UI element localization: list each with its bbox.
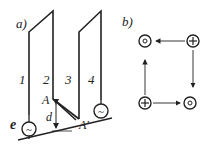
source-label: e [10,117,16,132]
panel-b-label: b) [122,14,133,29]
panel-a-label: a) [16,16,27,31]
point-a-label: A [41,93,50,107]
segment-a-a-prime [53,99,79,119]
conductor-bottom-left [139,97,151,109]
conductor-loop-1-2 [29,11,76,120]
svg-text:~: ~ [26,123,32,135]
panel-b: b) [122,14,199,109]
panel-a: a) ~ ~ 1 2 3 4 A A' d e [10,11,112,140]
wire-label-4: 4 [88,72,95,87]
wire-label-3: 3 [64,72,72,87]
conductor-loop-3-4 [79,11,101,119]
dot-out-icon [184,97,196,109]
conductor-top-right [187,35,199,47]
distance-label: d [46,110,53,124]
svg-text:~: ~ [98,105,104,117]
conductor-top-left [139,35,151,47]
voltage-source-left: ~ [22,115,36,139]
voltage-source-right: ~ [94,100,108,118]
point-a-prime-label: A' [78,118,89,132]
wire-label-1: 1 [19,72,26,87]
dot-out-icon [139,35,151,47]
wire-label-2: 2 [43,72,50,87]
conductor-bottom-right [184,97,196,109]
diagram-canvas: a) ~ ~ 1 2 3 4 A A' d e [0,0,209,157]
